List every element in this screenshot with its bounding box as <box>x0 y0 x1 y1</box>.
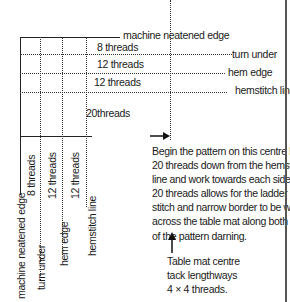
thread-count-8: 8 threads <box>97 41 138 53</box>
hemstitch-line <box>20 92 227 93</box>
thread-count-12-a: 12 threads <box>97 58 144 70</box>
vertical-label-hemstitch-line: hemstitch line <box>86 196 98 256</box>
instruction-line: stitch and narrow border to be worked <box>152 200 284 214</box>
vertical-turn-under-line <box>40 37 41 280</box>
pattern-start-line <box>20 136 92 137</box>
vertical-label-hem-edge: hem edge <box>58 222 70 266</box>
thread-count-20: 20threads <box>86 107 130 119</box>
note-line: tack lengthways <box>167 268 240 282</box>
note-line: 4 × 4 threads. <box>167 282 240 296</box>
instruction-line: 20 threads allows for the ladder hem- <box>152 186 284 200</box>
vertical-label-turn-under: turn under <box>35 245 47 290</box>
turn-under-line <box>20 54 232 55</box>
note-line: Table mat centre <box>167 254 240 268</box>
hem-edge-line <box>20 73 225 74</box>
arrow-right-icon <box>150 131 172 141</box>
vertical-thread-count-8: 8 threads <box>25 155 37 196</box>
instruction-line: line and work towards each side. The <box>152 172 284 186</box>
instruction-text: Begin the pattern on this centre line 20… <box>152 144 284 243</box>
label-machine-neatened-edge: machine neatened edge <box>123 29 229 41</box>
instruction-line: across the table mat along both sides <box>152 214 284 228</box>
vertical-thread-count-12-a: 12 threads <box>46 152 58 199</box>
vertical-hemstitch-line <box>86 37 87 207</box>
arrow-up-icon <box>167 232 177 254</box>
centre-line <box>170 0 171 140</box>
centre-note: Table mat centre tack lengthways 4 × 4 t… <box>167 254 240 296</box>
instruction-line: Begin the pattern on this centre line <box>152 144 284 158</box>
page-border <box>285 0 287 302</box>
label-turn-under: turn under <box>232 48 277 60</box>
left-edge-line <box>20 37 21 195</box>
label-hem-edge: hem edge <box>228 66 272 78</box>
thread-count-12-b: 12 threads <box>94 76 141 88</box>
vertical-thread-count-12-b: 12 threads <box>69 152 81 199</box>
vertical-label-machine-neatened-edge: machine neatened edge <box>15 193 27 299</box>
instruction-line: 20 threads down from the hemstitch <box>152 158 284 172</box>
machine-neatened-edge-line <box>20 37 120 38</box>
label-hemstitch-line: hemstitch line <box>235 84 290 96</box>
